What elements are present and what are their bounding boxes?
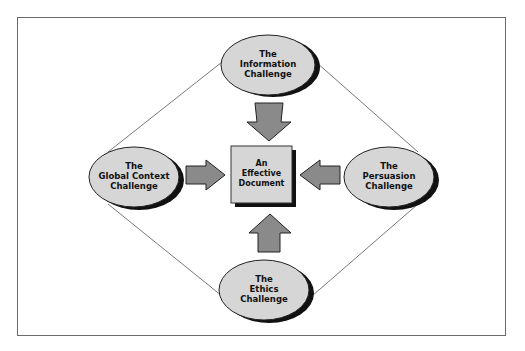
arrow-left-icon xyxy=(300,160,340,190)
persuasion-challenge-label: The Persuasion Challenge xyxy=(342,161,436,191)
global-context-challenge-label: The Global Context Challenge xyxy=(86,161,182,191)
label-line: The xyxy=(217,274,311,284)
label-line: Persuasion xyxy=(342,171,436,181)
information-challenge-label: The Information Challenge xyxy=(221,49,315,79)
label-line: Challenge xyxy=(342,181,436,191)
label-line: Challenge xyxy=(217,294,311,304)
label-line: Document xyxy=(231,179,292,189)
arrow-right-icon xyxy=(186,160,225,190)
label-line: Challenge xyxy=(86,181,182,191)
label-line: Global Context xyxy=(86,171,182,181)
label-line: The xyxy=(86,161,182,171)
ethics-challenge-label: The Ethics Challenge xyxy=(217,274,311,304)
arrow-down-icon xyxy=(247,103,291,141)
arrow-up-icon xyxy=(249,214,291,252)
label-line: Information xyxy=(221,59,315,69)
effective-document-label: An Effective Document xyxy=(231,159,292,189)
label-line: The xyxy=(221,49,315,59)
label-line: Ethics xyxy=(217,284,311,294)
label-line: An xyxy=(231,159,292,169)
label-line: Effective xyxy=(231,169,292,179)
label-line: The xyxy=(342,161,436,171)
label-line: Challenge xyxy=(221,69,315,79)
